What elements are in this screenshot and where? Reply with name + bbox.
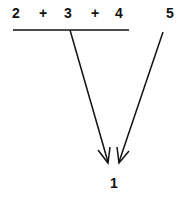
connector-lines [0,0,182,199]
arrow-left-shaft [70,30,108,162]
arrow-right-shaft [119,32,163,162]
